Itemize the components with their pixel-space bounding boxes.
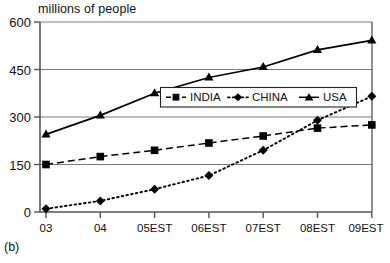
series-india	[42, 121, 375, 168]
y-tick-300: 300	[9, 110, 31, 125]
x-tick-03: 03	[40, 222, 53, 234]
x-tick-07est: 07EST	[246, 222, 281, 234]
y-tick-450: 450	[9, 63, 31, 78]
legend-usa-label: USA	[323, 91, 347, 103]
series-usa	[41, 35, 376, 137]
chart-legend[interactable]: INDIA CHINA USA	[161, 88, 357, 108]
x-tick-05est: 05EST	[137, 222, 172, 234]
x-tick-08est: 08EST	[300, 222, 335, 234]
legend-china-label: CHINA	[252, 91, 288, 103]
y-tick-600: 600	[9, 15, 31, 30]
line-chart: 600 450 300 150 0 03 04 05EST 06EST 07ES…	[0, 0, 390, 263]
figure-container: millions of people 600 450 300	[0, 0, 390, 263]
y-axis-ticks	[34, 22, 40, 212]
y-tick-0: 0	[24, 205, 31, 220]
india-markers	[42, 121, 375, 168]
y-axis-labels: 600 450 300 150 0	[9, 15, 31, 220]
y-tick-150: 150	[9, 158, 31, 173]
x-tick-06est: 06EST	[191, 222, 226, 234]
series-china	[42, 92, 377, 214]
legend-india-label: INDIA	[190, 91, 221, 103]
x-axis-ticks	[46, 212, 372, 218]
china-markers	[42, 92, 377, 214]
x-tick-09est: 09EST	[348, 222, 383, 234]
china-line	[46, 96, 372, 209]
usa-markers	[41, 35, 376, 137]
x-axis-labels: 03 04 05EST 06EST 07EST 08EST 09EST	[40, 222, 384, 234]
figure-caption: (b)	[4, 240, 19, 254]
x-tick-04: 04	[94, 222, 107, 234]
legend-india-marker-square-icon	[173, 94, 180, 101]
